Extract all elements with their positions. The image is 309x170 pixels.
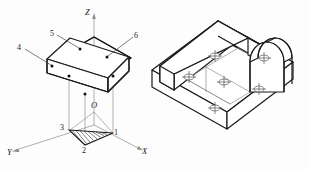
- technical-drawing-figure: Z X Y O 1 2 3 4 5 6: [0, 0, 309, 170]
- point-marker-3: [68, 75, 71, 78]
- projector-o-to-p3: [70, 112, 94, 130]
- axis-label-x: X: [142, 147, 147, 156]
- slab-body: [47, 38, 129, 92]
- right-diagram: [152, 21, 293, 129]
- point-label-1: 1: [114, 129, 118, 137]
- point-label-6: 6: [134, 32, 138, 40]
- point-label-2: 2: [82, 147, 86, 155]
- point-marker-1: [112, 75, 115, 78]
- axis-label-o: O: [91, 101, 97, 110]
- axis-label-z: Z: [85, 8, 90, 17]
- point-label-3: 3: [60, 124, 64, 132]
- drawing-canvas: [0, 0, 309, 170]
- axis-label-y: Y: [7, 148, 12, 157]
- point-marker-2: [84, 93, 87, 96]
- leader-line-4: [25, 49, 51, 65]
- left-diagram: [12, 13, 143, 152]
- axis-y-arrow: [12, 149, 19, 153]
- triangle-outline: [69, 130, 113, 145]
- axis-z-arrow: [92, 13, 96, 19]
- projection-triangle: [69, 130, 113, 145]
- point-label-4: 4: [17, 44, 21, 52]
- point-label-5: 5: [50, 30, 54, 38]
